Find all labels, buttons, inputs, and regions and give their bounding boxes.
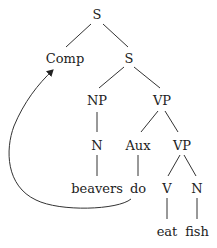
syntax-tree: S Comp S NP VP N Aux VP beavers do V N e…	[0, 0, 217, 248]
edge-s-comp	[66, 24, 91, 47]
edge-vp-n	[184, 155, 196, 176]
edge-s-vp	[134, 67, 160, 88]
node-n-subj: N	[91, 138, 102, 153]
edge-s-np	[99, 67, 124, 88]
edge-vp-v	[168, 155, 180, 176]
node-v: V	[161, 181, 172, 196]
node-comp: Comp	[46, 51, 84, 66]
node-aux: Aux	[124, 138, 151, 153]
tree-labels: S Comp S NP VP N Aux VP beavers do V N e…	[46, 7, 210, 239]
node-s-inner: S	[125, 51, 134, 66]
node-vp-inner: VP	[172, 138, 191, 153]
node-vp-outer: VP	[152, 93, 171, 108]
node-n-obj: N	[191, 181, 202, 196]
edge-s-s	[103, 24, 128, 47]
leaf-do: do	[130, 181, 146, 196]
edge-vp-vp	[165, 111, 178, 132]
leaf-eat: eat	[157, 224, 178, 239]
node-np: NP	[87, 93, 107, 108]
edge-vp-aux	[141, 111, 158, 132]
leaf-beavers: beavers	[71, 181, 123, 196]
node-s-root: S	[93, 7, 102, 22]
leaf-fish: fish	[185, 224, 209, 239]
